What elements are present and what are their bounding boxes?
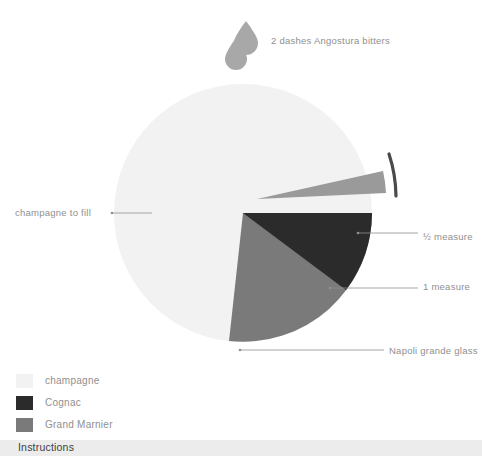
legend-swatch-champagne: [16, 374, 33, 388]
legend-swatch-cognac: [16, 396, 33, 410]
leader-dot-champagne: [111, 212, 114, 215]
instructions-title: Instructions: [18, 442, 74, 453]
recipe-pie-diagram: 2 dashes Angostura bitters champagne to …: [0, 0, 482, 456]
annotation-half-measure: ½ measure: [423, 232, 473, 242]
legend: champagne Cognac Grand Marnier: [16, 370, 186, 436]
annotation-glass: Napoli grande glass: [389, 346, 478, 356]
legend-item-champagne[interactable]: champagne: [16, 370, 186, 392]
legend-label-cognac: Cognac: [45, 398, 81, 408]
legend-item-grand-marnier[interactable]: Grand Marnier: [16, 414, 186, 436]
legend-label-grand-marnier: Grand Marnier: [45, 420, 113, 430]
bitters-outline-arc: [389, 154, 396, 196]
legend-label-champagne: champagne: [45, 376, 100, 386]
annotation-one-measure: 1 measure: [423, 282, 470, 292]
legend-swatch-grand-marnier: [16, 418, 33, 432]
leader-dot-one-measure: [329, 287, 332, 290]
annotation-champagne-fill: champagne to fill: [15, 208, 91, 218]
droplet-icon-group: [225, 21, 258, 70]
annotation-bitters: 2 dashes Angostura bitters: [271, 36, 390, 46]
legend-item-cognac[interactable]: Cognac: [16, 392, 186, 414]
leader-dot-glass: [239, 349, 242, 352]
leader-dot-half-measure: [357, 232, 360, 235]
